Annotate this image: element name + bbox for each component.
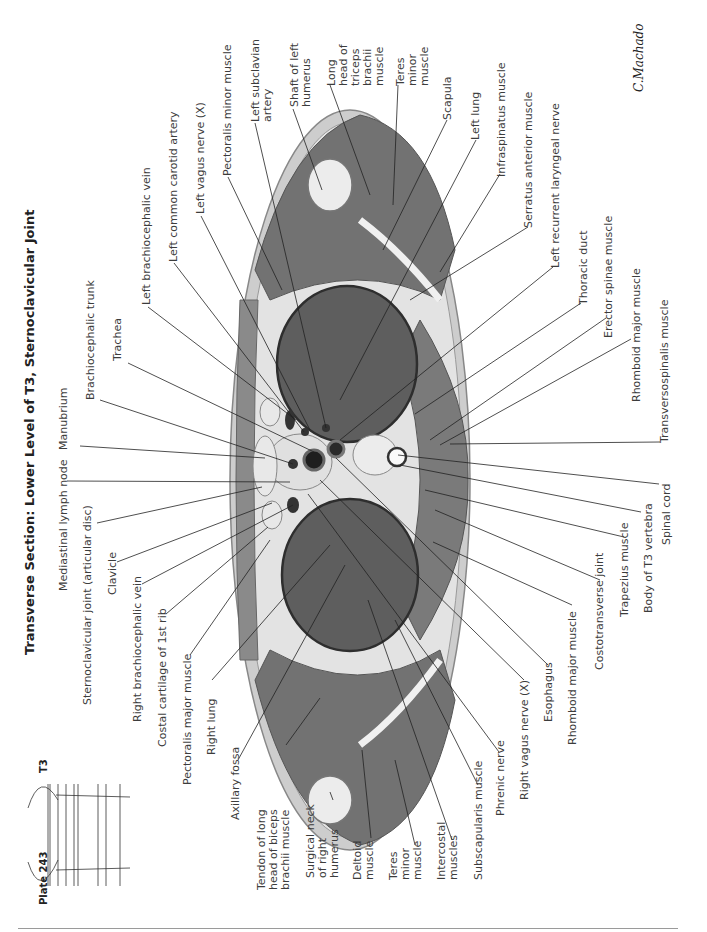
left-arm-muscles [255,115,455,300]
spinal-cord [388,448,406,466]
label-spinal-cord: Spinal cord [661,484,673,545]
trachea [304,450,324,470]
cross-section-illustration [0,0,707,932]
label-shaft-of-left-humerus: Shaft of left humerus [289,43,313,107]
label-costotransverse-joint: Costotransverse joint [594,553,606,670]
label-transversospinalis-muscle: Transversospinalis muscle [659,300,671,443]
label-intercostal-muscles: Intercostal muscles [436,822,460,880]
label-thoracic-duct: Thoracic duct [578,230,590,305]
label-body-of-t3-vertebra: Body of T3 vertebra [643,503,655,613]
label-left-vagus-nerve: Left vagus nerve (X) [195,102,207,214]
label-pectoralis-minor-muscle: Pectoralis minor muscle [222,45,234,176]
label-trapezius-muscle: Trapezius muscle [619,523,631,617]
plate-number: Plate 243 [38,852,49,905]
right-lung [282,499,418,651]
label-teres-minor-right: Teres minor muscle [388,841,424,880]
label-serratus-anterior-muscle: Serratus anterior muscle [523,92,535,228]
label-left-recurrent-laryngeal-nerve: Left recurrent laryngeal nerve [550,103,562,268]
label-left-common-carotid-artery: Left common carotid artery [168,111,180,262]
label-left-subclavian-artery: Left subclavian artery [250,39,274,122]
esophagus [328,441,344,457]
label-clavicle: Clavicle [107,552,119,595]
label-axillary-fossa: Axillary fossa [230,747,242,820]
label-manubrium: Manubrium [58,388,70,450]
label-subscapularis-muscle: Subscapularis muscle [473,761,485,880]
label-long-head-triceps: Long head of triceps brachii muscle [326,44,386,86]
footer-divider [18,928,678,929]
label-trachea: Trachea [112,318,124,361]
label-pectoralis-major-muscle: Pectoralis major muscle [182,654,194,785]
plate-title: Transverse Section: Lower Level of T3, S… [22,210,37,655]
artist-signature: C.Machado [632,23,646,92]
label-costal-cartilage-1st-rib: Costal cartilage of 1st rib [157,608,169,747]
label-infraspinatus-muscle: Infraspinatus muscle [496,62,508,177]
label-rhomboid-major-muscle-left: Rhomboid major muscle [631,268,643,402]
manubrium [253,436,277,496]
label-rhomboid-major-muscle-right: Rhomboid major muscle [567,611,579,745]
label-esophagus: Esophagus [543,662,555,722]
label-scapula: Scapula [442,76,454,120]
right-clavicle [262,501,282,529]
label-deltoid-muscle: Deltoid muscle [352,841,376,880]
label-tendon-long-head-biceps: Tendon of long head of biceps brachii mu… [256,809,292,890]
label-mediastinal-lymph-node: Mediastinal lymph node [58,459,70,591]
label-brachiocephalic-trunk: Brachiocephalic trunk [85,280,97,400]
label-erector-spinae-muscle: Erector spinae muscle [603,216,615,338]
left-humerus [308,159,352,211]
label-right-brachiocephalic-vein: Right brachiocephalic vein [132,576,144,722]
label-left-lung: Left lung [470,92,482,140]
left-clavicle [260,398,280,426]
label-left-brachiocephalic-vein: Left brachiocephalic vein [141,167,153,305]
label-right-vagus-nerve: Right vagus nerve (X) [519,680,531,800]
label-surgical-neck-right-humerus: Surgical neck of right humerus [305,804,341,878]
level-marker: T3 [38,759,49,773]
label-teres-minor-left: Teres minor muscle [395,47,431,86]
label-sternoclavicular-joint: Sternoclavicular joint (articular disc) [82,505,94,705]
label-right-lung: Right lung [206,699,218,755]
label-phrenic-nerve: Phrenic nerve [495,740,507,816]
